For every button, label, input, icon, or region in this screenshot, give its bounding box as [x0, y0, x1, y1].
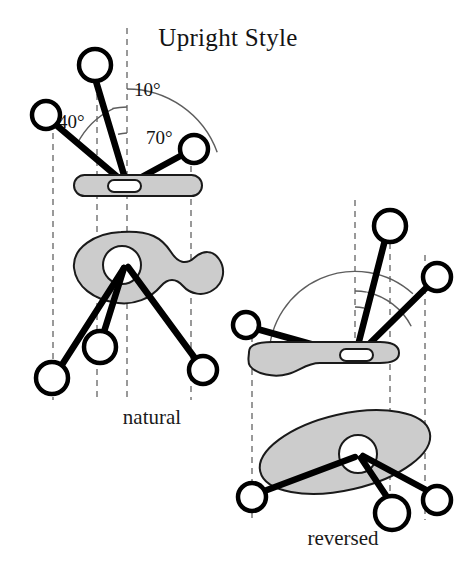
ball-lower-center: [84, 331, 116, 363]
ball-10deg: [79, 49, 111, 81]
ball-40deg: [233, 312, 259, 338]
ball-lower-center: [375, 496, 409, 530]
club-bar-hole: [108, 180, 141, 192]
figure-title: Upright Style: [158, 24, 297, 51]
figure-root: Upright Style 10° 40° 70°: [0, 0, 469, 574]
top-view-bar-natural: [74, 175, 202, 196]
ball-70deg: [180, 135, 208, 163]
angle-label-70: 70°: [146, 127, 173, 148]
ball-lower-left: [238, 483, 266, 511]
ball-lower-right: [423, 486, 451, 514]
foot-ellipse-hole: [339, 435, 377, 473]
caption-natural: natural: [123, 405, 181, 429]
ball-10deg: [374, 210, 406, 242]
diagram-background: [0, 0, 469, 574]
caption-reversed: reversed: [307, 526, 379, 550]
ball-lower-right: [189, 356, 217, 384]
ball-lower-left: [36, 362, 68, 394]
upright-style-diagram: Upright Style 10° 40° 70°: [0, 0, 469, 574]
club-blade-hole: [340, 349, 373, 361]
ball-70deg: [423, 263, 451, 291]
ball-40deg: [32, 101, 60, 129]
angle-label-10: 10°: [134, 79, 161, 100]
